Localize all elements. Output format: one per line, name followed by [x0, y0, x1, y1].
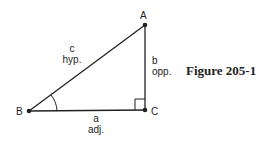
side-b-letter: b [152, 55, 158, 66]
angle-b-arc [51, 95, 57, 111]
side-c-letter: c [70, 43, 75, 54]
right-triangle-diagram: A B C c hyp. b opp. a adj. Figure 205-1 [0, 0, 257, 143]
side-a-name: adj. [88, 124, 104, 135]
side-a-adjacent [29, 110, 145, 111]
vertex-b-label: B [16, 106, 23, 117]
vertex-c-label: C [151, 106, 158, 117]
side-c-name: hyp. [63, 54, 82, 65]
vertex-a-point [143, 23, 148, 28]
vertex-b-point [27, 109, 32, 114]
vertex-a-label: A [140, 10, 147, 21]
side-b-name: opp. [152, 66, 171, 77]
vertex-c-point [143, 108, 148, 113]
side-c-hypotenuse [29, 25, 145, 111]
figure-caption: Figure 205-1 [186, 63, 256, 78]
side-a-letter: a [93, 113, 99, 124]
